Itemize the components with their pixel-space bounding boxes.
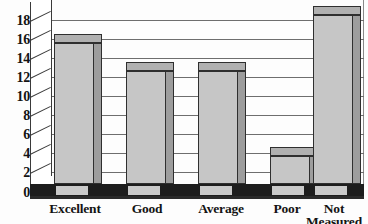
x-axis-label-not-measured: Not Measured xyxy=(300,202,368,224)
bar-poor-front xyxy=(270,156,310,184)
y-axis-tick-14: 14 xyxy=(0,52,30,66)
floor-tile-5 xyxy=(315,186,347,195)
axis-floor-front xyxy=(30,196,364,199)
bar-good-top xyxy=(126,62,174,71)
bar-good xyxy=(126,0,174,184)
bar-poor-top xyxy=(270,147,318,156)
bar-good-front xyxy=(126,71,166,184)
floor-tile-3 xyxy=(200,186,232,195)
y-axis-tick-6: 6 xyxy=(0,128,30,142)
floor-tile-1 xyxy=(56,186,88,195)
y-axis-tick-4: 4 xyxy=(0,147,30,161)
bar-good-side xyxy=(165,71,174,184)
y-axis-tick-18: 18 xyxy=(0,14,30,28)
wall-connector-2 xyxy=(30,163,51,174)
wall-connector-12 xyxy=(30,68,51,79)
bar-average-side xyxy=(237,71,246,184)
bar-excellent-side xyxy=(93,43,102,184)
bar-not-measured xyxy=(313,0,361,184)
bar-not-measured-top xyxy=(313,6,361,15)
plot-left-wall xyxy=(30,0,52,184)
bar-excellent xyxy=(54,0,102,184)
y-axis-tick-2: 2 xyxy=(0,166,30,180)
x-axis-label-not-measured-line2: Measured xyxy=(300,215,368,224)
bar-average-top xyxy=(198,62,246,71)
bar-not-measured-side xyxy=(352,15,361,184)
y-axis-tick-16: 16 xyxy=(0,33,30,47)
y-axis-tick-0: 0 xyxy=(0,186,30,200)
floor-tile-4 xyxy=(272,186,304,195)
x-axis-label-good-line1: Good xyxy=(108,202,186,215)
wall-connector-4 xyxy=(30,144,51,155)
floor-tile-2 xyxy=(128,186,160,195)
bar-poor xyxy=(270,0,318,184)
wall-connector-14 xyxy=(30,49,51,60)
x-axis-label-excellent: Excellent xyxy=(30,202,120,215)
bar-excellent-front xyxy=(54,43,94,184)
bar-chart: 18 16 14 12 10 8 6 4 2 0 xyxy=(0,0,368,224)
wall-connector-8 xyxy=(30,106,51,117)
wall-connector-16 xyxy=(30,30,51,41)
wall-edge-front xyxy=(30,2,31,184)
plot-right-edge xyxy=(363,0,364,184)
bar-excellent-top xyxy=(54,34,102,43)
wall-connector-18 xyxy=(30,11,51,22)
y-axis-tick-12: 12 xyxy=(0,71,30,85)
x-axis-label-excellent-line1: Excellent xyxy=(30,202,120,215)
y-axis-tick-8: 8 xyxy=(0,109,30,123)
bar-average-front xyxy=(198,71,238,184)
x-axis-label-good: Good xyxy=(108,202,186,215)
plot-area xyxy=(52,0,364,184)
wall-connector-6 xyxy=(30,125,51,136)
y-axis-tick-10: 10 xyxy=(0,90,30,104)
wall-connector-10 xyxy=(30,87,51,98)
bar-average xyxy=(198,0,246,184)
bar-not-measured-front xyxy=(313,15,353,184)
